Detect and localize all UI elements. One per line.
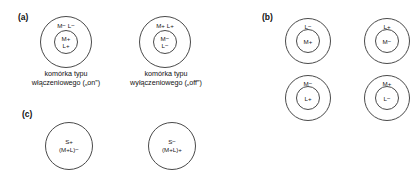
cell-a1-center-label-2: L+ xyxy=(55,42,77,49)
cell-c2-label-1: S− xyxy=(149,138,195,145)
cell-c1-label-2: (M+L)− xyxy=(46,146,92,153)
panel-label-a: (a) xyxy=(18,12,28,22)
cell-b2-center-label: M− xyxy=(376,38,398,45)
cell-b4-center-label: L− xyxy=(376,95,398,102)
cell-b4-center: L− xyxy=(375,86,399,110)
cell-b1-center-label: M+ xyxy=(297,38,319,45)
cell-a1-center: M+ L+ xyxy=(54,30,78,54)
panel-label-b: (b) xyxy=(262,12,273,22)
cell-c2-label-2: (M+L)+ xyxy=(149,146,195,153)
cell-b2-center: M− xyxy=(375,29,399,53)
cell-a2-center-label-1: M− xyxy=(154,35,176,42)
cell-a1-center-label-1: M+ xyxy=(55,35,77,42)
cell-a2-center: M− L− xyxy=(153,30,177,54)
cell-a1-surround-label: M− L− xyxy=(41,22,91,29)
cell-a2-center-label-2: L− xyxy=(154,42,176,49)
cell-c2: S− (M+L)+ xyxy=(148,122,196,170)
caption-a2-line-2: wyłączeniowego („off”) xyxy=(104,79,228,88)
cell-b3-center-label: L+ xyxy=(297,95,319,102)
cell-c1-label-1: S+ xyxy=(46,138,92,145)
panel-label-c: (c) xyxy=(22,109,32,119)
cell-b1-center: M+ xyxy=(296,29,320,53)
cell-b3-center: L+ xyxy=(296,86,320,110)
figure-canvas: (a) M− L− M+ L+ komórka typu włączeniowe… xyxy=(0,0,420,178)
cell-c1: S+ (M+L)− xyxy=(45,122,93,170)
cell-a2-surround-label: M+ L+ xyxy=(140,22,190,29)
